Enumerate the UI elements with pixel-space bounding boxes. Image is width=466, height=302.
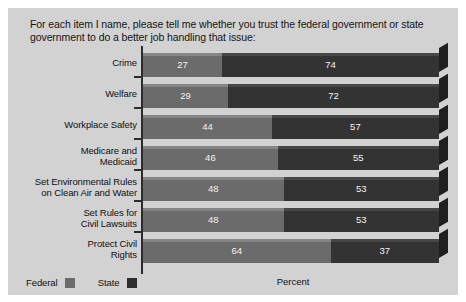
category-label: Crime	[8, 57, 137, 68]
bar-segment-federal[interactable]: 64	[143, 239, 331, 263]
chart-title: For each item I name, please tell me whe…	[30, 18, 442, 44]
category-label: Welfare	[8, 88, 137, 99]
bar-end-cap	[439, 105, 448, 134]
stacked-bar[interactable]: 4853	[143, 177, 439, 201]
legend: Federal State	[26, 276, 157, 292]
stacked-bar[interactable]: 4457	[143, 115, 439, 139]
bar-row: Workplace Safety4457	[8, 112, 458, 142]
bar-row: Protect CivilRights6437	[8, 236, 458, 266]
bar-segment-state[interactable]: 37	[331, 239, 439, 263]
category-label-line: Medicaid	[8, 156, 137, 167]
bar-segment-state[interactable]: 72	[228, 84, 439, 108]
bar-row: Set Environmental Ruleson Clean Air and …	[8, 174, 458, 204]
bar-end-cap	[439, 43, 448, 72]
category-label-line: Set Rules for	[8, 207, 137, 218]
bar-segment-state[interactable]: 55	[278, 146, 439, 170]
category-label-line: Protect Civil	[8, 238, 137, 249]
chart-panel: For each item I name, please tell me whe…	[8, 8, 458, 295]
category-label: Set Rules forCivil Lawsuits	[8, 207, 137, 229]
stacked-bar[interactable]: 4853	[143, 208, 439, 232]
category-label-line: Set Environmental Rules	[8, 176, 137, 187]
bar-segment-federal[interactable]: 44	[143, 115, 272, 139]
bar-end-cap	[439, 229, 448, 258]
bar-row: Set Rules forCivil Lawsuits4853	[8, 205, 458, 235]
legend-item-federal: Federal	[26, 276, 75, 288]
category-label-line: Crime	[8, 57, 137, 68]
x-axis-label: Percent	[143, 276, 443, 287]
stacked-bar[interactable]: 6437	[143, 239, 439, 263]
bar-end-cap	[439, 167, 448, 196]
bar-segment-state[interactable]: 53	[284, 208, 439, 232]
category-label-line: Workplace Safety	[8, 119, 137, 130]
category-label-line: Civil Lawsuits	[8, 218, 137, 229]
stacked-bar[interactable]: 2774	[143, 53, 439, 77]
legend-swatch-federal	[65, 278, 75, 288]
legend-item-state: State	[98, 276, 137, 288]
bar-segment-state[interactable]: 57	[272, 115, 439, 139]
bar-segment-federal[interactable]: 46	[143, 146, 278, 170]
legend-label-federal: Federal	[26, 277, 58, 288]
bar-segment-federal[interactable]: 48	[143, 177, 284, 201]
stacked-bar[interactable]: 4655	[143, 146, 439, 170]
bar-end-cap	[439, 198, 448, 227]
category-label: Protect CivilRights	[8, 238, 137, 260]
bar-segment-federal[interactable]: 29	[143, 84, 228, 108]
stacked-bar[interactable]: 2972	[143, 84, 439, 108]
bar-end-cap	[439, 74, 448, 103]
bar-row: Welfare2972	[8, 81, 458, 111]
bar-segment-state[interactable]: 53	[284, 177, 439, 201]
plot-area: Crime2774Welfare2972Workplace Safety4457…	[8, 46, 458, 274]
bar-segment-federal[interactable]: 27	[143, 53, 222, 77]
bar-row: Medicare andMedicaid4655	[8, 143, 458, 173]
bar-row: Crime2774	[8, 50, 458, 80]
legend-swatch-state	[127, 278, 137, 288]
category-label-line: Welfare	[8, 88, 137, 99]
category-label: Workplace Safety	[8, 119, 137, 130]
bar-segment-state[interactable]: 74	[222, 53, 439, 77]
category-label: Medicare andMedicaid	[8, 145, 137, 167]
category-label-line: Medicare and	[8, 145, 137, 156]
category-label-line: on Clean Air and Water	[8, 187, 137, 198]
category-label: Set Environmental Ruleson Clean Air and …	[8, 176, 137, 198]
legend-label-state: State	[98, 277, 120, 288]
category-label-line: Rights	[8, 249, 137, 260]
bar-segment-federal[interactable]: 48	[143, 208, 284, 232]
bar-end-cap	[439, 136, 448, 165]
